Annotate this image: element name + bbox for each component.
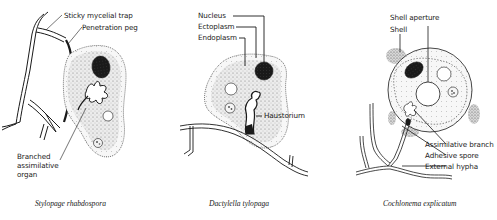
cochlonema-illustration [330,0,497,220]
label-ectoplasm: Ectoplasm [198,23,235,30]
caption-cochlonema: Cochlonema explicatum [383,199,457,208]
label-branched-organ-3: organ [17,171,37,178]
panel-cochlonema: Shell aperture Shell Assimilative branch… [330,0,497,220]
stylopage-illustration [0,0,170,220]
label-haustorium: Haustorium [264,112,305,119]
dactylella-illustration [160,0,330,220]
panel-stylopage: Sticky mycelial trap Penetration peg Bra… [0,0,170,220]
label-endoplasm: Endoplasm [198,34,237,41]
label-penetration-peg: Penetration peg [82,24,138,31]
label-external-hypha: External hypha [425,163,478,170]
label-assimilative-branch: Assimilative branch [425,141,494,148]
label-sticky-mycelial-trap: Sticky mycelial trap [64,12,133,19]
panel-dactylella: Nucleus Ectoplasm Endoplasm Haustorium D… [160,0,330,220]
caption-dactylella: Dactylella tylopaga [209,199,269,208]
label-shell: Shell [390,26,407,33]
label-branched-organ-2: assimilative [17,162,59,169]
label-adhesive-spore: Adhesive spore [425,152,479,159]
label-branched-organ-1: Branched [17,153,51,160]
label-shell-aperture: Shell aperture [390,14,439,21]
caption-stylopage: Stylopage rhabdospora [35,199,106,208]
label-nucleus: Nucleus [198,12,226,19]
